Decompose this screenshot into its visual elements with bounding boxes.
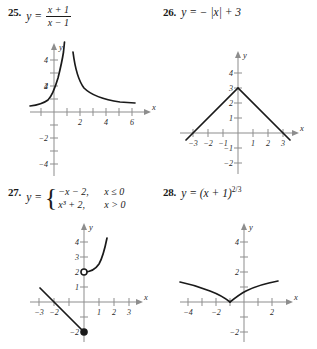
graph-27-curves — [40, 238, 107, 335]
graph-27: −3 −2 1 2 3 1 2 3 4 −2 x y — [26, 216, 161, 349]
svg-text:x: x — [151, 102, 156, 112]
svg-text:−3: −3 — [34, 308, 43, 317]
svg-text:−2: −2 — [39, 134, 48, 143]
svg-text:y: y — [248, 222, 253, 232]
problem-25-number: 25. — [8, 6, 21, 19]
svg-text:1: 1 — [251, 139, 255, 148]
svg-text:−4: −4 — [183, 308, 192, 317]
svg-text:2: 2 — [78, 118, 82, 127]
y-axis-arrow — [235, 51, 241, 58]
svg-text:4: 4 — [44, 56, 48, 65]
svg-text:1: 1 — [229, 114, 233, 123]
svg-text:1: 1 — [75, 283, 79, 292]
graph-26-axis-names: x y — [242, 50, 304, 133]
svg-text:6: 6 — [130, 118, 134, 127]
closed-endpoint-marker — [81, 329, 87, 335]
graph-28-tick-labels: −4 −2 2 2 4 −2 — [183, 238, 274, 337]
svg-text:y: y — [58, 42, 63, 52]
problem-28-exponent: 2/3 — [232, 185, 242, 194]
fraction-denominator: x − 1 — [46, 18, 71, 29]
svg-text:x: x — [293, 292, 298, 302]
problem-25-statement: 25. y = x + 1 x − 1 — [8, 6, 158, 30]
svg-text:x: x — [143, 292, 148, 302]
x-axis-arrow — [136, 299, 143, 305]
problem-25-fraction: x + 1 x − 1 — [46, 5, 71, 29]
problem-27-lhs: y = — [26, 191, 42, 203]
problem-28-lhs: y = — [181, 187, 197, 199]
svg-text:2: 2 — [112, 308, 116, 317]
x-axis-arrow — [286, 299, 293, 305]
problem-25-lhs: y = — [26, 10, 42, 22]
problem-25-equation: y = x + 1 x − 1 — [26, 6, 72, 30]
graph-28-axis-names: x y — [248, 222, 298, 302]
graph-27-svg: −3 −2 1 2 3 1 2 3 4 −2 x y — [26, 216, 161, 349]
y-axis-arrow — [81, 223, 87, 230]
right-branch — [73, 52, 135, 103]
case-1-function: −x − 2, — [58, 186, 104, 199]
svg-text:3: 3 — [280, 139, 285, 148]
svg-text:y: y — [88, 222, 93, 232]
cubic-piece — [84, 238, 107, 272]
svg-text:−2: −2 — [70, 328, 79, 337]
svg-text:−2: −2 — [224, 159, 233, 168]
svg-text:−2: −2 — [211, 308, 220, 317]
problem-27-statement: 27. y = { −x − 2,x ≤ 0 x³ + 2,x > 0 — [8, 186, 158, 211]
textbook-page: 25. y = x + 1 x − 1 — [0, 0, 317, 349]
case-row-2: x³ + 2,x > 0 — [58, 199, 125, 210]
graph-25-tick-labels: 2 4 6 4 3 — [43, 69, 134, 127]
case-2-condition: x > 0 — [104, 199, 125, 210]
svg-text:4: 4 — [235, 238, 239, 247]
problem-28-equation: y = (x + 1)2/3 — [181, 186, 241, 200]
graph-25-svg: 2 4 6 4 3 4 2 −2 −4 x y — [28, 40, 158, 180]
svg-text:2: 2 — [229, 99, 233, 108]
graph-25: 2 4 6 4 3 4 2 −2 −4 x y — [28, 40, 158, 180]
y-axis-arrow — [241, 223, 247, 230]
problem-27-number: 27. — [8, 186, 21, 199]
problem-27-equation: y = { −x − 2,x ≤ 0 x³ + 2,x > 0 — [26, 186, 125, 211]
problem-25: 25. y = x + 1 x − 1 — [8, 6, 158, 30]
svg-text:x: x — [299, 123, 304, 133]
svg-text:4: 4 — [229, 69, 233, 78]
svg-text:−2: −2 — [203, 139, 212, 148]
problem-27: 27. y = { −x − 2,x ≤ 0 x³ + 2,x > 0 — [8, 186, 158, 211]
problem-28-number: 28. — [163, 186, 176, 199]
graph-27-axes — [30, 223, 143, 342]
x-axis-arrow — [144, 109, 151, 115]
graph-28-svg: −4 −2 2 2 4 −2 x y — [176, 216, 311, 349]
problem-28: 28. y = (x + 1)2/3 — [163, 186, 313, 200]
y-axis-arrow — [51, 43, 57, 50]
linear-piece — [40, 288, 84, 332]
problem-28-base: (x + 1) — [200, 187, 232, 199]
problem-26-rhs: − |x| + 3 — [200, 6, 241, 18]
x-axis-arrow — [292, 130, 299, 136]
graph-26-svg: −3 −2 −1 1 2 3 1 2 3 4 −1 −2 x y — [176, 40, 306, 180]
svg-text:y: y — [242, 50, 247, 60]
case-1-condition: x ≤ 0 — [104, 186, 124, 197]
graph-26-axes — [180, 51, 299, 174]
svg-text:2: 2 — [44, 82, 48, 91]
problem-26-lhs: y = — [181, 6, 197, 18]
svg-text:3: 3 — [228, 84, 233, 93]
svg-text:4: 4 — [75, 238, 79, 247]
case-2-function: x³ + 2, — [58, 199, 104, 212]
svg-text:2: 2 — [75, 268, 79, 277]
graph-26: −3 −2 −1 1 2 3 1 2 3 4 −1 −2 x y — [176, 40, 306, 180]
svg-text:−4: −4 — [39, 160, 48, 169]
svg-text:3: 3 — [74, 253, 79, 262]
svg-text:−2: −2 — [230, 328, 239, 337]
graph-25-curves — [30, 42, 135, 106]
graph-28: −4 −2 2 2 4 −2 x y — [176, 216, 311, 349]
svg-text:−3: −3 — [188, 139, 197, 148]
problem-26-equation: y = − |x| + 3 — [181, 6, 241, 19]
piecewise-group: { −x − 2,x ≤ 0 x³ + 2,x > 0 — [45, 186, 126, 211]
fraction-numerator: x + 1 — [46, 5, 71, 16]
problem-28-statement: 28. y = (x + 1)2/3 — [163, 186, 313, 200]
svg-text:2: 2 — [266, 139, 270, 148]
svg-text:−1: −1 — [224, 144, 233, 153]
graph-25-axes — [30, 43, 151, 176]
problem-26: 26. y = − |x| + 3 — [163, 6, 313, 19]
graph-27-axis-names: x y — [88, 222, 148, 302]
open-endpoint-marker — [81, 269, 87, 275]
svg-text:1: 1 — [97, 308, 101, 317]
problem-26-number: 26. — [163, 6, 176, 19]
